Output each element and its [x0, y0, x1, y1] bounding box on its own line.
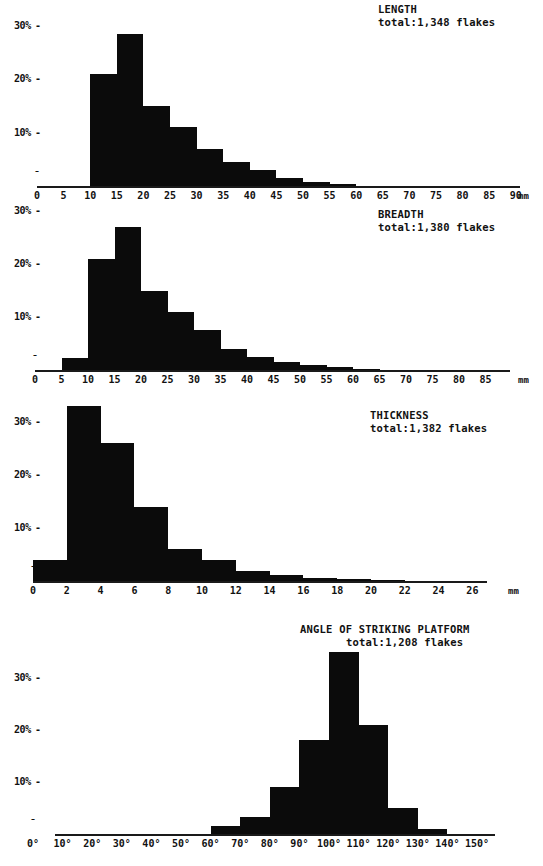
x-axis-tick-label: 30°	[113, 838, 131, 849]
y-axis-tick-dash: -	[35, 776, 41, 787]
histogram-bar	[418, 829, 448, 834]
histogram-bar	[329, 652, 359, 834]
x-axis-tick-label: 110°	[347, 838, 371, 849]
x-axis-tick-label: 60°	[202, 838, 220, 849]
histogram-bar	[270, 787, 300, 834]
y-axis-tick-label: 20%-	[14, 724, 41, 735]
x-axis-tick-label: 70°	[231, 838, 249, 849]
histogram-chart-4: ANGLE OF STRIKING PLATFORMtotal:1,208 fl…	[0, 0, 543, 866]
y-axis-origin-mark: ˉ	[30, 818, 36, 829]
x-axis-line	[55, 834, 495, 836]
y-axis-tick-label: 10%-	[14, 776, 41, 787]
histogram-bar	[211, 826, 241, 834]
x-axis-tick-label: 80°	[261, 838, 279, 849]
histogram-bar	[388, 808, 418, 834]
x-axis-tick-label: 40°	[142, 838, 160, 849]
chart-title: ANGLE OF STRIKING PLATFORM	[300, 623, 470, 636]
x-axis-tick-label: 130°	[406, 838, 430, 849]
histogram-bar	[359, 725, 389, 834]
y-axis-tick-text: 10%	[14, 776, 31, 787]
chart-total-label: total:1,208 flakes	[346, 636, 470, 649]
y-axis-tick-label: 30%-	[14, 672, 41, 683]
x-axis-tick-label: 120°	[376, 838, 400, 849]
x-axis-tick-label: 100°	[317, 838, 341, 849]
y-axis-tick-dash: -	[35, 724, 41, 735]
x-axis-tick-label: 0°	[27, 838, 39, 849]
y-axis-tick-text: 30%	[14, 672, 31, 683]
y-axis-tick-text: 20%	[14, 724, 31, 735]
histogram-bar	[240, 817, 270, 834]
x-axis-tick-label: 150°	[465, 838, 489, 849]
x-axis-tick-label: 50°	[172, 838, 190, 849]
chart-title-block: ANGLE OF STRIKING PLATFORMtotal:1,208 fl…	[300, 623, 470, 648]
x-axis-tick-label: 10°	[54, 838, 72, 849]
x-axis-tick-label: 140°	[435, 838, 459, 849]
histogram-bar	[299, 740, 329, 834]
y-axis-tick-dash: -	[35, 672, 41, 683]
x-axis-tick-label: 90°	[290, 838, 308, 849]
x-axis-tick-label: 20°	[83, 838, 101, 849]
